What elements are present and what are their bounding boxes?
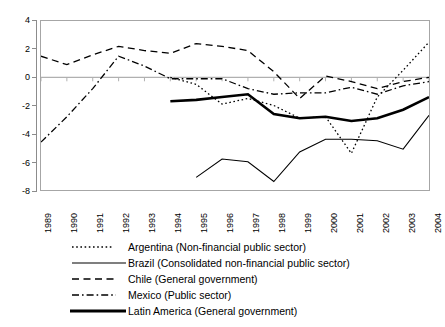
x-axis-labels: 1989199019911992199319941995199619971998… xyxy=(40,193,430,235)
y-tick xyxy=(32,134,37,135)
legend-line-sample xyxy=(68,241,128,253)
x-tick-label: 1990 xyxy=(70,213,79,233)
legend-line-sample xyxy=(68,289,128,301)
y-tick-label: 0 xyxy=(0,72,30,82)
y-tick xyxy=(32,20,37,21)
legend-item: Latin America (General government) xyxy=(68,303,378,319)
x-tick-label: 2004 xyxy=(434,213,443,233)
x-tick-label: 1995 xyxy=(200,213,209,233)
legend-line-sample xyxy=(68,305,128,317)
x-tick-label: 1996 xyxy=(226,213,235,233)
y-tick-label: -8 xyxy=(0,186,30,196)
series-line-4 xyxy=(170,94,429,121)
y-tick-label: -6 xyxy=(0,158,30,168)
x-tick-label: 2002 xyxy=(382,213,391,233)
legend-item: Mexico (Public sector) xyxy=(68,287,378,303)
x-tick-label: 2003 xyxy=(408,213,417,233)
series-line-3 xyxy=(41,56,429,142)
x-tick-label: 1993 xyxy=(148,213,157,233)
y-tick xyxy=(32,162,37,163)
y-tick xyxy=(32,48,37,49)
legend-label: Brazil (Consolidated non-financial publi… xyxy=(128,257,350,269)
x-tick-label: 1994 xyxy=(174,213,183,233)
y-tick-label: -2 xyxy=(0,101,30,111)
x-tick-label: 1999 xyxy=(304,213,313,233)
legend-label: Mexico (Public sector) xyxy=(128,289,231,301)
legend-label: Argentina (Non-financial public sector) xyxy=(128,241,306,253)
y-tick-label: 2 xyxy=(0,44,30,54)
fiscal-balance-line-chart: 420-2-4-6-8 1989199019911992199319941995… xyxy=(0,0,445,327)
x-tick-label: 1991 xyxy=(96,213,105,233)
legend-item: Brazil (Consolidated non-financial publi… xyxy=(68,255,378,271)
legend-item: Argentina (Non-financial public sector) xyxy=(68,239,378,255)
x-tick-label: 2000 xyxy=(330,213,339,233)
legend-item: Chile (General government) xyxy=(68,271,378,287)
legend-label: Latin America (General government) xyxy=(128,305,297,317)
series-line-1 xyxy=(196,115,429,181)
x-tick-label: 1997 xyxy=(252,213,261,233)
plot-area xyxy=(40,20,430,191)
x-tick-label: 1992 xyxy=(122,213,131,233)
chart-legend: Argentina (Non-financial public sector)B… xyxy=(68,239,378,319)
series-line-2 xyxy=(41,44,429,99)
y-tick xyxy=(32,191,37,192)
x-tick-label: 2001 xyxy=(356,213,365,233)
y-tick-label: 4 xyxy=(0,15,30,25)
legend-line-sample xyxy=(68,273,128,285)
y-tick xyxy=(32,105,37,106)
legend-line-sample xyxy=(68,257,128,269)
y-tick xyxy=(32,77,37,78)
y-tick-label: -4 xyxy=(0,129,30,139)
legend-label: Chile (General government) xyxy=(128,273,258,285)
x-tick-label: 1989 xyxy=(44,213,53,233)
series-lines xyxy=(41,21,429,190)
x-tick-label: 1998 xyxy=(278,213,287,233)
